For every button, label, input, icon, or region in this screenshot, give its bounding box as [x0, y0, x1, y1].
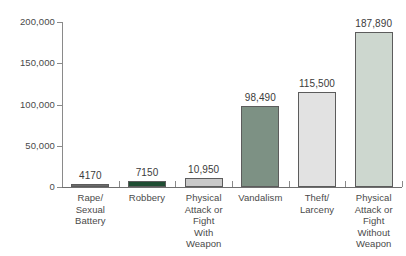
- category-label-line: Attack or: [345, 204, 402, 216]
- bar-value-label: 10,950: [188, 165, 219, 175]
- bar-value-label: 115,500: [299, 79, 335, 89]
- bar[interactable]: [128, 181, 166, 187]
- category-label-line: Attack or: [175, 204, 232, 216]
- bar[interactable]: [355, 32, 393, 187]
- category-label-line: With: [175, 227, 232, 239]
- bar-value-label: 98,490: [245, 93, 276, 103]
- category-label-line: Without: [345, 227, 402, 239]
- bar-chart: 050,000100,000150,000200,000 4170715010,…: [0, 0, 406, 256]
- bar-group: 115,500: [289, 22, 346, 187]
- y-axis-tick-label: 100,000: [3, 100, 55, 110]
- x-axis-line: [62, 187, 402, 188]
- bar[interactable]: [298, 92, 336, 187]
- bar-group: 4170: [62, 22, 119, 187]
- bar-value-label: 187,890: [355, 19, 392, 29]
- bar-value-label: 7150: [136, 168, 159, 178]
- category-label-line: Weapon: [175, 238, 232, 250]
- y-axis-tick-label: 200,000: [3, 17, 55, 27]
- category-label: Rape/SexualBattery: [62, 192, 119, 227]
- category-label-line: Fight: [345, 215, 402, 227]
- category-label: Vandalism: [232, 192, 289, 204]
- bar[interactable]: [185, 178, 223, 187]
- category-label-line: Weapon: [345, 238, 402, 250]
- y-axis-tick-label: 50,000: [3, 141, 55, 151]
- bar-group: 187,890: [345, 22, 402, 187]
- bar-value-label: 4170: [79, 171, 102, 181]
- category-label-line: Physical: [175, 192, 232, 204]
- category-label-line: Theft/: [289, 192, 346, 204]
- y-axis-tick-label: 150,000: [3, 58, 55, 68]
- category-label: Robbery: [119, 192, 176, 204]
- category-label-line: Larceny: [289, 204, 346, 216]
- category-label-line: Battery: [62, 215, 119, 227]
- category-label-line: Physical: [345, 192, 402, 204]
- category-label: PhysicalAttack orFightWithWeapon: [175, 192, 232, 250]
- category-label: PhysicalAttack orFightWithoutWeapon: [345, 192, 402, 250]
- bar[interactable]: [241, 106, 279, 187]
- category-label-line: Fight: [175, 215, 232, 227]
- category-label-line: Robbery: [119, 192, 176, 204]
- bar[interactable]: [71, 184, 109, 187]
- bar-group: 98,490: [232, 22, 289, 187]
- category-label-line: Rape/: [62, 192, 119, 204]
- y-axis-tick-label: 0: [3, 182, 55, 192]
- bar-group: 7150: [119, 22, 176, 187]
- plot-area: 4170715010,95098,490115,500187,890: [62, 22, 402, 187]
- category-label-line: Vandalism: [232, 192, 289, 204]
- x-axis-divider: [402, 181, 403, 187]
- bar-group: 10,950: [175, 22, 232, 187]
- category-label-line: Sexual: [62, 204, 119, 216]
- category-label: Theft/Larceny: [289, 192, 346, 215]
